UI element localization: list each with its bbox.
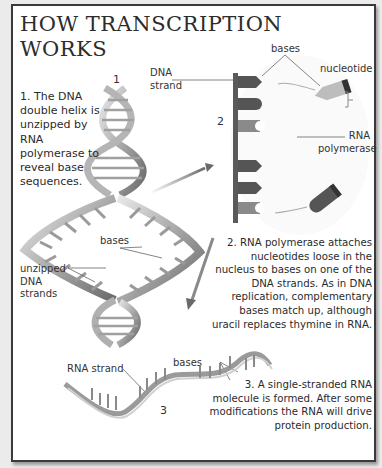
label-dna-strand: DNA strand bbox=[150, 67, 186, 92]
step-number-1: 1 bbox=[113, 73, 120, 86]
label-bases-top: bases bbox=[271, 43, 300, 56]
label-bases-bottom: bases bbox=[173, 357, 202, 370]
label-rna-strand: RNA strand bbox=[67, 363, 124, 376]
step-2-description: 2. RNA polymerase attaches nucleotides l… bbox=[210, 236, 372, 331]
label-bases-middle: bases bbox=[100, 235, 129, 248]
label-unzipped-dna-strands: unzipped DNA strands bbox=[20, 263, 70, 301]
arrow-head-icon bbox=[205, 163, 214, 172]
arrow-head-icon bbox=[186, 298, 196, 310]
label-nucleotide: nucleotide bbox=[320, 63, 372, 76]
step-1-description: 1. The DNA double helix is unzipped by R… bbox=[20, 90, 110, 189]
step-3-description: 3. A single-stranded RNA molecule is for… bbox=[208, 378, 372, 432]
label-rna-polymerase: RNA polymerase bbox=[318, 130, 370, 155]
step-number-2: 2 bbox=[217, 115, 224, 128]
arrow-step1-to-step2 bbox=[150, 168, 205, 193]
step-number-3: 3 bbox=[160, 404, 167, 417]
